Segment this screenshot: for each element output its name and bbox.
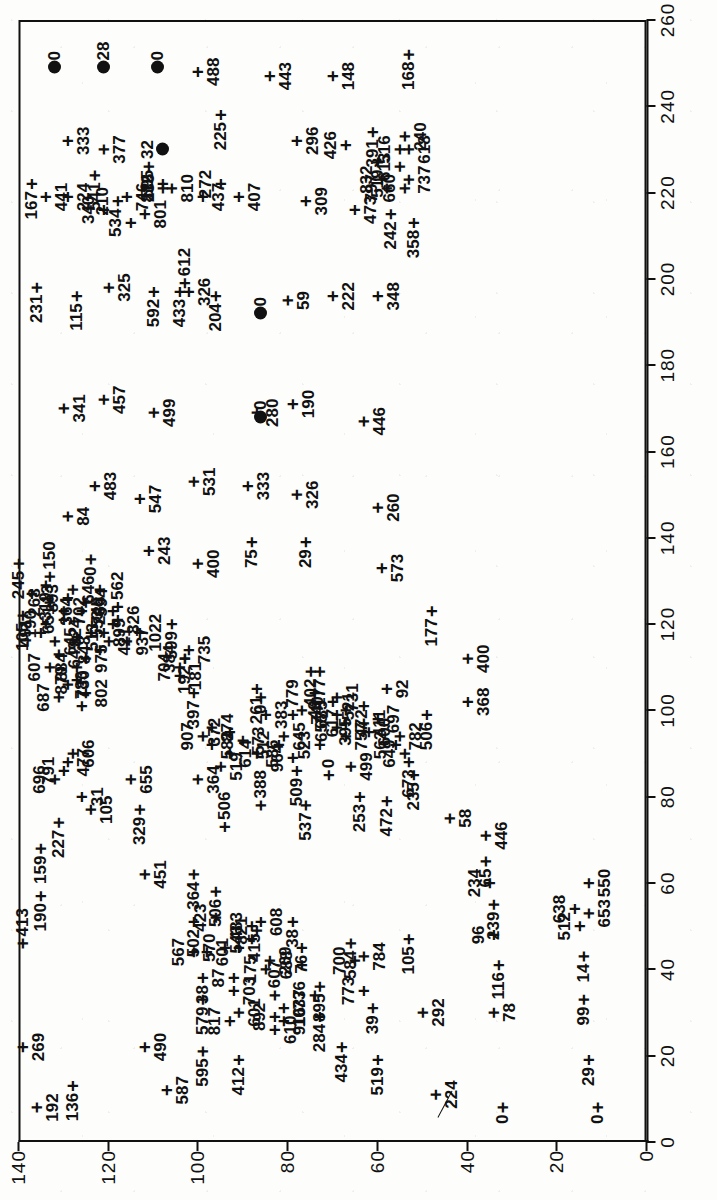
data-point-label: 175 xyxy=(241,955,258,983)
data-point-label: 28 xyxy=(95,42,112,61)
data-point-label: 483 xyxy=(101,472,118,500)
data-point-label: 78 xyxy=(500,1003,517,1022)
x-tick-label: 60 xyxy=(656,872,678,895)
plus-marker-icon: + xyxy=(174,277,194,289)
y-tick-label: 80 xyxy=(276,1150,298,1190)
data-point-label: 235 xyxy=(140,174,157,202)
data-point-label: 0 xyxy=(319,759,336,768)
data-point-label: 547 xyxy=(146,485,163,513)
data-point-label: 541 xyxy=(86,182,103,210)
data-point-label: 531 xyxy=(200,468,217,496)
data-point-label: 687 xyxy=(34,683,51,711)
plus-marker-icon: + xyxy=(39,571,59,583)
data-point-label: 490 xyxy=(151,1033,168,1061)
plus-marker-icon: + xyxy=(340,938,360,950)
x-tick-label: 140 xyxy=(656,521,678,556)
plus-marker-icon: + xyxy=(107,601,127,613)
plus-marker-icon: + xyxy=(309,666,329,678)
data-point-label: 573 xyxy=(388,554,405,582)
x-tick-mark xyxy=(646,796,655,798)
data-point-label: 150 xyxy=(41,541,58,569)
data-point-label: 388 xyxy=(252,770,269,798)
plus-marker-icon: + xyxy=(143,286,163,298)
x-tick-label: 100 xyxy=(656,693,678,728)
data-point-label: 243 xyxy=(155,537,172,565)
data-point-label: 14 xyxy=(575,963,592,982)
dot-marker-icon xyxy=(254,411,267,424)
plus-marker-icon: + xyxy=(483,899,503,911)
plus-marker-icon: + xyxy=(295,536,315,548)
x-tick-label: 80 xyxy=(656,785,678,808)
data-point-label: 391 xyxy=(364,139,381,167)
plus-marker-icon: + xyxy=(26,282,46,294)
plus-marker-icon: + xyxy=(80,554,100,566)
y-axis-line xyxy=(18,1140,648,1142)
plus-marker-icon: + xyxy=(573,994,593,1006)
data-point-label: 239 xyxy=(485,912,502,940)
x-tick-mark xyxy=(646,882,655,884)
data-point-label: 400 xyxy=(474,645,491,673)
data-point-label: 58 xyxy=(456,809,473,828)
data-point-label: 31 xyxy=(88,787,105,806)
data-point-label: 76 xyxy=(292,955,309,974)
data-point-label: 562 xyxy=(371,731,388,759)
data-point-label: 260 xyxy=(384,493,401,521)
x-tick-label: 120 xyxy=(656,607,678,642)
data-point-label: 697 xyxy=(384,705,401,733)
data-point-label: 204 xyxy=(207,303,224,331)
dot-marker-icon xyxy=(155,143,168,156)
data-point-label: 737 xyxy=(415,165,432,193)
data-point-label: 537 xyxy=(297,812,314,840)
plus-marker-icon: + xyxy=(62,1080,82,1092)
data-point-label: 895 xyxy=(310,994,327,1022)
data-point-label: 784 xyxy=(370,942,387,970)
data-point-label: 791 xyxy=(39,757,56,785)
plus-marker-icon: + xyxy=(192,1046,212,1058)
plus-marker-icon: + xyxy=(367,1054,387,1066)
y-tick-label: 20 xyxy=(545,1150,567,1190)
x-tick-label: 40 xyxy=(656,958,678,981)
data-point-label: 584 xyxy=(341,951,358,979)
data-point-label: 240 xyxy=(411,122,428,150)
data-point-label: 592 xyxy=(144,299,161,327)
x-tick-mark xyxy=(646,623,655,625)
y-tick-label: 40 xyxy=(456,1150,478,1190)
data-point-label: 426 xyxy=(321,131,338,159)
x-tick-mark xyxy=(646,105,655,107)
data-point-label: 655 xyxy=(137,765,154,793)
data-point-label: 227 xyxy=(50,830,67,858)
data-point-label: 0 xyxy=(149,51,166,60)
x-tick-label: 240 xyxy=(656,89,678,124)
data-point-label: 519 xyxy=(368,1067,385,1095)
plus-marker-icon: + xyxy=(318,769,338,781)
data-point-label: 231 xyxy=(27,295,44,323)
data-point-label: 38 xyxy=(193,985,210,1004)
data-point-label: 225 xyxy=(211,122,228,150)
data-point-label: 736 xyxy=(290,981,307,1009)
data-point-label: 892 xyxy=(250,1003,267,1031)
data-point-label: 735 xyxy=(195,636,212,664)
plus-marker-icon: + xyxy=(331,1041,351,1053)
data-point-label: 65 xyxy=(476,869,493,888)
data-point-label: 105 xyxy=(400,946,417,974)
data-point-label: 284 xyxy=(310,1024,327,1052)
data-point-label: 29 xyxy=(579,1067,596,1086)
data-point-label: 817 xyxy=(205,1007,222,1035)
data-point-label: 242 xyxy=(382,221,399,249)
x-axis-line xyxy=(646,20,648,1142)
x-tick-mark xyxy=(646,278,655,280)
plus-marker-icon: + xyxy=(398,49,418,61)
plus-marker-icon: + xyxy=(8,558,28,570)
data-point-label: 884 xyxy=(52,653,69,681)
data-point-label: 168 xyxy=(400,62,417,90)
data-point-label: 326 xyxy=(303,481,320,509)
data-point-label: 0 xyxy=(494,1114,511,1123)
plus-marker-icon: + xyxy=(587,1102,607,1114)
plus-marker-icon: + xyxy=(66,290,86,302)
data-point-label: 446 xyxy=(492,821,509,849)
plus-marker-icon: + xyxy=(84,170,104,182)
data-point-label: 773 xyxy=(339,977,356,1005)
data-point-label: 136 xyxy=(63,1093,80,1121)
data-point-label: 512 xyxy=(254,731,271,759)
data-point-label: 472 xyxy=(377,808,394,836)
